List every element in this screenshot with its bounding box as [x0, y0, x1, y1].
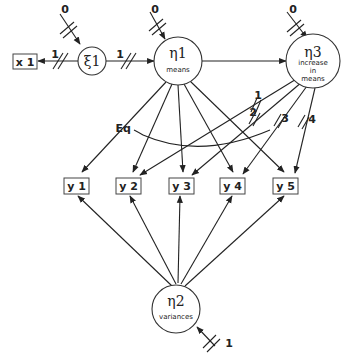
observed-y3: y 3: [169, 178, 194, 194]
path-eta2-y1: [78, 196, 172, 286]
svg-text:increase: increase: [298, 59, 328, 67]
observed-y5: y 5: [273, 178, 298, 194]
observed-x1: x 1: [13, 54, 37, 69]
svg-text:means: means: [166, 66, 190, 74]
svg-text:y 1: y 1: [67, 180, 86, 193]
label-xi1-mean: 0: [61, 3, 69, 16]
path-eta2-y4: [181, 196, 232, 284]
equality-label: Eq: [116, 122, 131, 135]
label-eta2-var: 1: [225, 337, 233, 350]
label-eta3-y3: 2: [249, 106, 257, 119]
observed-y4: y 4: [220, 178, 245, 194]
label-eta3-y5: 4: [308, 113, 316, 126]
label-eta3-y4: 3: [281, 112, 289, 125]
latent-eta3: η3 increase in means: [286, 34, 340, 88]
path-eta3-y5: [295, 88, 315, 173]
label-eta1-mean: 0: [151, 3, 159, 16]
svg-text:in: in: [310, 67, 316, 75]
label-eta3-mean: 0: [289, 3, 297, 16]
path-var-eta2: [197, 327, 215, 346]
svg-text:x 1: x 1: [16, 56, 35, 69]
svg-text:η3: η3: [304, 44, 321, 60]
svg-text:y 2: y 2: [119, 180, 138, 193]
path-eta1-y4: [184, 84, 233, 172]
label-xi1-eta1: 1: [116, 48, 124, 61]
svg-text:ξ1: ξ1: [84, 53, 101, 69]
path-eta2-y5: [185, 196, 284, 286]
label-xi1-x1: 1: [51, 48, 59, 61]
fixed-mark-eta2-var: [203, 335, 220, 352]
latent-eta2: η2 variances: [152, 285, 200, 333]
svg-text:η2: η2: [167, 293, 184, 309]
path-mean-xi1: [60, 14, 80, 44]
path-eta2-y2: [130, 196, 176, 284]
svg-text:y 3: y 3: [172, 180, 191, 193]
latent-xi1: ξ1: [78, 47, 106, 75]
label-eta3-y2: 1: [254, 89, 262, 102]
path-eta3-y2: [140, 78, 298, 175]
latent-eta1: η1 means: [154, 37, 202, 85]
equality-arc: [143, 130, 270, 146]
equality-leader: [134, 130, 143, 135]
path-diagram: x 1 y 1 y 2 y 3 y 4 y 5 ξ1 η1 means η3 i…: [0, 0, 349, 360]
svg-text:variances: variances: [159, 313, 193, 321]
svg-text:y 5: y 5: [276, 180, 295, 193]
svg-text:y 4: y 4: [223, 180, 242, 193]
observed-y2: y 2: [116, 178, 141, 194]
svg-text:η1: η1: [169, 45, 186, 61]
observed-y1: y 1: [64, 178, 89, 194]
path-eta1-y3: [178, 85, 183, 172]
fixed-mark-eta1-mean: [149, 19, 166, 35]
path-eta2-y3: [178, 196, 180, 283]
svg-text:means: means: [301, 75, 325, 83]
